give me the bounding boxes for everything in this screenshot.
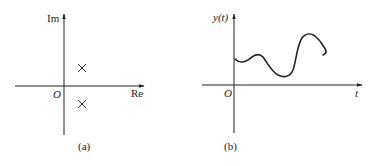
panel-a-caption: (a) (78, 140, 91, 153)
pole-marker-upper (78, 64, 86, 72)
pole-marker-lower (78, 100, 86, 108)
figure: Im Re O (a) y(t) t O (b) (0, 0, 370, 166)
panel-b-origin-label: O (224, 87, 232, 99)
panel-a-re-label: Re (131, 87, 143, 99)
panel-b-t-label: t (355, 87, 359, 99)
panel-b-signal-plot: y(t) t O (b) (202, 11, 362, 153)
signal-curve (235, 34, 326, 77)
panel-a-pole-plot: Im Re O (a) (15, 12, 144, 153)
panel-b-caption: (b) (224, 140, 237, 153)
panel-b-y-label: y(t) (212, 11, 229, 24)
panel-a-im-label: Im (47, 12, 60, 24)
panel-a-origin-label: O (53, 88, 61, 100)
